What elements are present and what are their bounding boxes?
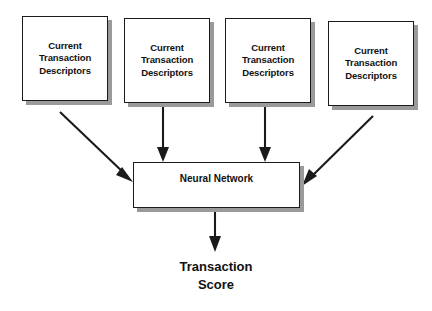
arrowhead-output xyxy=(209,236,221,252)
input-node-1-label: Current Transaction Descriptors xyxy=(39,40,91,78)
input-node-3-line-1: Current xyxy=(251,42,285,53)
arrowhead-box3 xyxy=(259,147,271,162)
diagram-canvas: Current Transaction Descriptors Current … xyxy=(0,0,432,311)
input-node-3: Current Transaction Descriptors xyxy=(225,18,311,103)
input-node-2-line-3: Descriptors xyxy=(141,67,193,78)
arrowhead-box1 xyxy=(116,167,133,182)
neural-network-label: Neural Network xyxy=(180,173,253,185)
transaction-score-output: Transaction Score xyxy=(136,258,296,293)
input-node-4-line-1: Current xyxy=(354,45,388,56)
input-node-2-line-1: Current xyxy=(150,42,184,53)
input-node-1: Current Transaction Descriptors xyxy=(22,16,108,101)
edge-line-box4 xyxy=(310,116,373,178)
input-node-3-line-2: Transaction xyxy=(242,54,294,65)
edge-neural-network-to-output xyxy=(209,209,221,252)
input-node-4-line-2: Transaction xyxy=(345,57,397,68)
neural-network-node: Neural Network xyxy=(133,162,300,208)
input-node-3-line-3: Descriptors xyxy=(242,67,294,78)
input-node-1-line-2: Transaction xyxy=(39,52,91,63)
input-node-1-line-1: Current xyxy=(48,40,82,51)
input-node-4-line-3: Descriptors xyxy=(345,70,397,81)
input-node-4: Current Transaction Descriptors xyxy=(328,21,414,106)
edge-box4-to-neural-network xyxy=(302,116,373,186)
transaction-score-line-2: Score xyxy=(198,277,234,292)
edge-box3-to-neural-network xyxy=(259,104,271,162)
edge-box1-to-neural-network xyxy=(60,112,133,182)
input-node-2: Current Transaction Descriptors xyxy=(124,18,210,103)
edge-line-box1 xyxy=(60,112,126,175)
arrowhead-box4 xyxy=(302,169,317,186)
input-node-2-label: Current Transaction Descriptors xyxy=(141,42,193,80)
input-node-4-label: Current Transaction Descriptors xyxy=(345,45,397,83)
input-node-2-line-2: Transaction xyxy=(141,54,193,65)
input-node-3-label: Current Transaction Descriptors xyxy=(242,42,294,80)
edge-box2-to-neural-network xyxy=(157,105,169,162)
arrowhead-box2 xyxy=(157,147,169,162)
input-node-1-line-3: Descriptors xyxy=(39,65,91,76)
transaction-score-line-1: Transaction xyxy=(180,259,253,274)
